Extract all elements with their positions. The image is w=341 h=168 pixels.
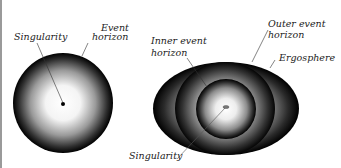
outer-horizon-leader-line [252,30,268,62]
schwarzschild-black-hole: Singularity Event horizon [13,22,129,153]
outer-horizon-label-line1: Outer event [268,18,326,29]
black-hole-diagram: Singularity Event horizon Inner event ho… [0,0,341,168]
ergosphere-label: Ergosphere [278,52,336,63]
singularity-label: Singularity [14,31,68,42]
ring-singularity [223,105,229,108]
inner-event-horizon [196,79,256,139]
outer-horizon-label-line2: horizon [268,29,304,40]
inner-horizon-label-line1: Inner event [150,35,207,46]
event-horizon-leader-line [82,43,88,56]
kerr-singularity-label: Singularity [129,150,183,161]
diagram-frame: Singularity Event horizon Inner event ho… [0,0,341,168]
ergosphere-leader-line [270,60,275,68]
inner-horizon-label-line2: horizon [151,47,187,58]
event-horizon-label-line2: horizon [92,31,128,42]
kerr-black-hole: Inner event horizon Outer event horizon … [129,18,336,161]
